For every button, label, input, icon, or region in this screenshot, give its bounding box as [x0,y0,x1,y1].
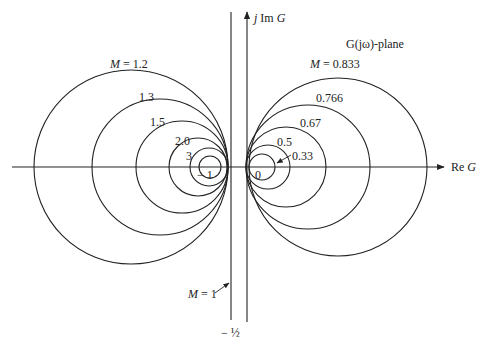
label-m-0-5: 0.5 [277,136,292,148]
real-axis-label: Re G [451,161,476,173]
label-m-0-33: 0.33 [292,150,313,162]
label-m-1-5: 1.5 [150,116,165,128]
label-m-0-766: 0.766 [316,92,343,104]
label-minus-half: − ½ [221,327,240,339]
m-circles-plot [0,0,484,350]
label-zero: 0 [255,169,261,181]
label-m-3: 3 [186,150,192,162]
m1-pointer-arrow [215,283,229,293]
m-circles-figure: j Im G G(jω)-plane Re G M = 1.2 1.3 1.5 … [0,0,484,350]
label-m-2-0: 2.0 [175,135,190,147]
plane-title: G(jω)-plane [346,38,404,50]
label-m-1-2: M = 1.2 [110,58,148,70]
label-minus-one: − 1 [197,169,213,181]
label-m-0-67: 0.67 [300,117,321,129]
imag-axis-label: j Im G [254,12,285,24]
label-m-1: M = 1 [188,288,217,300]
label-m-1-3: 1.3 [139,91,154,103]
label-m-0-833: M = 0.833 [310,58,360,70]
